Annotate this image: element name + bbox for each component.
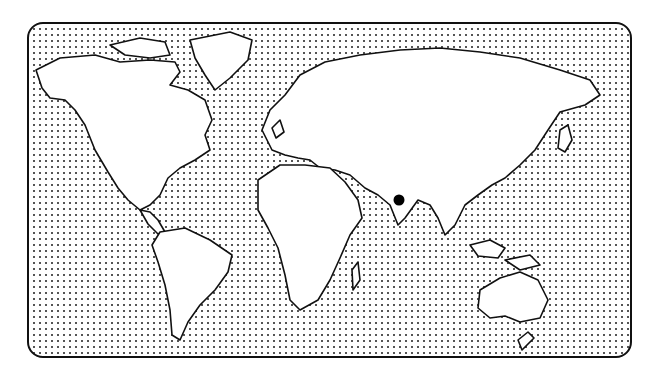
greenland [190,32,252,90]
north-america [36,55,212,210]
africa [258,165,362,310]
world-map [0,0,656,372]
australia [478,272,548,322]
location-marker [394,195,405,206]
south-america [152,228,232,340]
